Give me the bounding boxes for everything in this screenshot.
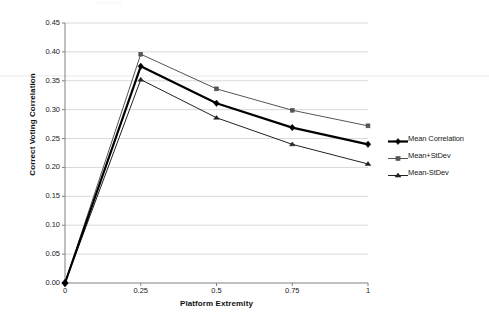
legend-item-label: Mean-StDev — [408, 168, 449, 177]
data-point-marker — [366, 124, 370, 128]
data-point-marker — [139, 52, 143, 56]
data-point-marker — [365, 141, 371, 148]
diamond-marker-icon — [388, 133, 408, 144]
square-marker-icon — [388, 150, 408, 161]
triangle-marker-icon — [388, 167, 408, 178]
series-line — [65, 80, 368, 283]
legend-item[interactable]: Mean+StDev — [388, 148, 489, 163]
gridlines — [65, 23, 368, 254]
series-mean-stdev — [65, 77, 371, 283]
data-point-marker — [214, 100, 220, 107]
data-point-marker — [214, 115, 220, 119]
data-point-marker — [290, 108, 294, 112]
data-point-marker — [289, 124, 295, 131]
x-tick-label: 0.75 — [272, 286, 312, 295]
x-tick-label: 0 — [45, 286, 85, 295]
x-tick-label: 0.25 — [121, 286, 161, 295]
chart-legend: Mean CorrelationMean+StDevMean-StDev — [388, 131, 489, 182]
series-line — [65, 66, 368, 283]
data-point-marker — [215, 87, 219, 91]
data-series-layer — [62, 52, 371, 287]
data-point-marker — [138, 77, 144, 81]
legend-item-label: Mean+StDev — [408, 151, 451, 160]
x-tick-label: 0.5 — [197, 286, 237, 295]
chart-figure: Correct Voting Correlation 0.000.050.100… — [0, 0, 489, 321]
legend-item[interactable]: Mean Correlation — [388, 131, 489, 146]
x-tick-label: 1 — [348, 286, 388, 295]
x-axis-title: Platform Extremity — [65, 299, 368, 308]
series-mean-correlation — [65, 63, 371, 283]
legend-item[interactable]: Mean-StDev — [388, 165, 489, 180]
legend-item-label: Mean Correlation — [408, 134, 464, 143]
